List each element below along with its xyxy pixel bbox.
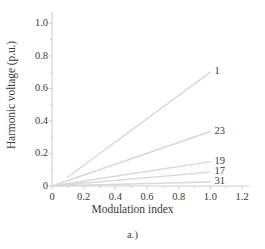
series-label-1: 1 xyxy=(214,66,219,76)
series-line-1 xyxy=(68,72,211,177)
chart-figure: Harmonic voltage (p.u.) 00.20.40.60.81.0… xyxy=(0,0,265,249)
data-series-lines xyxy=(52,72,210,186)
series-label-23: 23 xyxy=(214,126,225,136)
figure-caption: a.) xyxy=(0,229,265,240)
x-axis-title: Modulation index xyxy=(0,203,265,215)
series-line-23 xyxy=(52,132,210,186)
series-label-31: 31 xyxy=(214,176,225,186)
series-label-19: 19 xyxy=(214,156,225,166)
axis-tick-marks xyxy=(49,23,243,189)
